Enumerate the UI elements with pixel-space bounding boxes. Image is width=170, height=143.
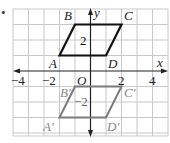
x-axis-label: x [156, 55, 163, 70]
vertex-label-b: B [64, 8, 72, 23]
x-tick-label: 4 [149, 73, 156, 88]
vertex-label-a-prime: A′ [42, 119, 54, 134]
bullet-marker: • [1, 5, 6, 20]
image-inner-label: −2 [74, 94, 88, 109]
y-axis-label: y [92, 5, 100, 20]
vertex-label-d-prime: D′ [106, 119, 119, 134]
coordinate-plane-figure: • y x O −4 −2 2 4 [0, 0, 170, 143]
x-tick-label: −4 [11, 73, 25, 88]
vertex-label-a: A [48, 56, 57, 71]
axes [16, 11, 166, 134]
vertex-label-c-prime: C′ [124, 85, 136, 100]
vertex-label-c: C [124, 8, 133, 23]
x-tick-label: −2 [42, 73, 56, 88]
preimage-inner-label: 2 [80, 33, 87, 48]
vertex-label-d: D [107, 56, 118, 71]
vertex-label-b-prime: B′ [60, 85, 71, 100]
